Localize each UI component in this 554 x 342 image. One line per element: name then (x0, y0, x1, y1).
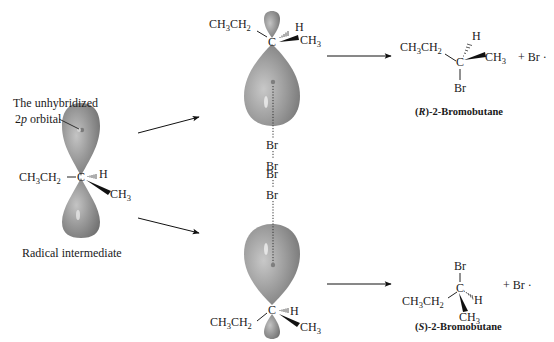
arrow-to-bottom-attack (138, 218, 199, 233)
ethyl-group: CH3CH2 (210, 315, 252, 331)
carbon-atom: C (77, 170, 85, 184)
arrow-to-top-attack (138, 117, 199, 133)
s-2-bromobutane: Br C CH3CH2 H CH3 + Br · (S)-2-Bromobuta… (402, 259, 532, 333)
bromine-radical-byproduct: + Br · (503, 278, 532, 292)
p-orbital-upper-lobe (62, 103, 100, 176)
orbital-label-line2: 2p orbital (15, 112, 62, 126)
wedge-bond (86, 180, 111, 195)
methyl-group: CH3 (110, 187, 131, 203)
bromine-atom: Br (454, 81, 466, 95)
hydrogen-atom: H (295, 20, 304, 34)
bromine-leaving: Br (266, 167, 278, 181)
radical-intermediate: The unhybridized 2p orbital CH3CH2 C H C… (13, 96, 131, 260)
product-name-r: (R)-2-Bromobutane (415, 106, 503, 118)
hydrogen-atom: H (290, 304, 299, 318)
carbon-atom: C (268, 35, 276, 49)
r-2-bromobutane: CH3CH2 C H CH3 + Br · Br (R)-2-Bromobuta… (400, 29, 547, 118)
radical-caption: Radical intermediate (22, 246, 122, 260)
methyl-group: CH3 (485, 50, 506, 66)
bromine-attacking: Br (266, 188, 278, 202)
ethyl-group: CH3CH2 (400, 40, 442, 56)
ethyl-group: CH3CH2 (19, 170, 61, 186)
large-lobe (244, 44, 300, 126)
bromine-atom: Br (454, 259, 466, 273)
bromine-radical-byproduct: + Br · (518, 50, 547, 64)
methyl-group: CH3 (300, 33, 321, 49)
top-attack-transition: Br Br CH3CH2 C H CH3 (209, 11, 321, 173)
ethyl-group: CH3CH2 (402, 294, 444, 310)
orbital-label-line1: The unhybridized (13, 96, 98, 110)
hydrogen-atom: H (474, 293, 483, 307)
methyl-group: CH3 (300, 320, 321, 336)
bottom-attack-transition: Br Br C CH3CH2 H CH3 (210, 167, 321, 339)
bromine-attacking: Br (266, 138, 278, 152)
reaction-diagram: The unhybridized 2p orbital CH3CH2 C H C… (0, 0, 554, 342)
carbon-atom: C (268, 303, 276, 317)
ethyl-group: CH3CH2 (209, 17, 251, 33)
product-name-s: (S)-2-Bromobutane (415, 321, 502, 333)
hydrogen-atom: H (99, 167, 108, 181)
p-orbital-lower-lobe (62, 178, 100, 238)
carbon-atom: C (456, 55, 464, 69)
carbon-atom: C (456, 281, 464, 295)
hydrogen-atom: H (472, 29, 481, 43)
hashed-bond (88, 174, 96, 179)
